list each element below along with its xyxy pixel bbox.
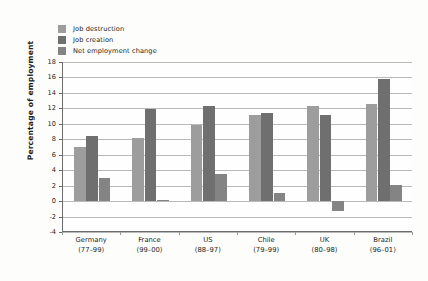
x-axis-label-years: (99–00) [120, 246, 178, 256]
legend-label-job-creation: Job creation [73, 36, 113, 44]
y-axis-line [62, 62, 63, 232]
y-tick-label: 12 [48, 104, 56, 112]
legend-label-net-employment-change: Net employment change [73, 47, 157, 55]
gridline [62, 124, 412, 125]
y-tick-label: 6 [52, 151, 56, 159]
gridline [62, 155, 412, 156]
legend-item-job-creation: Job creation [58, 35, 157, 44]
y-tick-label: 16 [48, 73, 56, 81]
x-axis-labels: Germany(77–99)France(99–00)US(88–97)Chil… [62, 236, 412, 270]
x-axis-label-years: (96–01) [354, 246, 412, 256]
y-tick-label: 4 [52, 166, 56, 174]
bar [99, 178, 111, 201]
legend-swatch-net-employment-change [58, 47, 66, 55]
x-axis-label-name: Germany [76, 236, 107, 244]
bar [157, 200, 169, 202]
legend-swatch-job-destruction [58, 25, 66, 33]
bar [249, 115, 261, 201]
x-tick-mark [295, 232, 296, 235]
gridline [62, 170, 412, 171]
bar [145, 109, 157, 201]
x-axis-label-group: UK(80–98) [295, 236, 353, 255]
legend-label-job-destruction: Job destruction [73, 25, 124, 33]
x-tick-mark [237, 232, 238, 235]
legend-swatch-job-creation [58, 36, 66, 44]
bar [332, 201, 344, 211]
bar [191, 125, 203, 202]
bar [307, 106, 319, 201]
y-tick-label: 14 [48, 89, 56, 97]
bar [261, 113, 273, 201]
bar [86, 136, 98, 201]
x-axis-label-years: (80–98) [295, 246, 353, 256]
gridline [62, 186, 412, 187]
legend-item-job-destruction: Job destruction [58, 24, 157, 33]
x-axis-label-group: Brazil(96–01) [354, 236, 412, 255]
gridline [62, 77, 412, 78]
gridline [62, 139, 412, 140]
gridline [62, 108, 412, 109]
bar [366, 104, 378, 201]
x-tick-mark [179, 232, 180, 235]
x-axis-label-group: Germany(77–99) [62, 236, 120, 255]
y-tick-label: 10 [48, 120, 56, 128]
y-tick-label: 2 [52, 182, 56, 190]
y-axis-title: Percentage of employment [26, 11, 35, 191]
y-tick-label: -2 [49, 213, 56, 221]
plot-background [62, 62, 412, 232]
y-tick-label: 18 [48, 58, 56, 66]
gridline [62, 62, 412, 63]
chart-figure: Job destruction Job creation Net employm… [0, 0, 428, 281]
x-axis-label-group: France(99–00) [120, 236, 178, 255]
bar [132, 138, 144, 201]
x-axis-label-name: UK [320, 236, 329, 244]
x-axis-line [62, 231, 412, 232]
gridline [62, 201, 412, 202]
x-axis-label-years: (79–99) [237, 246, 295, 256]
x-axis-label-name: US [203, 236, 212, 244]
plot-area: 181614121086420-2-4 [62, 62, 412, 232]
bar [74, 147, 86, 201]
x-axis-label-name: Chile [258, 236, 275, 244]
gridline [62, 93, 412, 94]
x-tick-mark [412, 232, 413, 235]
bar [378, 79, 390, 201]
x-tick-mark [120, 232, 121, 235]
x-axis-label-name: France [138, 236, 161, 244]
y-tick-label: 8 [52, 135, 56, 143]
bar [215, 174, 227, 201]
gridline [62, 217, 412, 218]
x-axis-label-name: Brazil [373, 236, 392, 244]
y-tick-label: 0 [52, 197, 56, 205]
bar [390, 185, 402, 201]
bar [203, 106, 215, 201]
bar [274, 193, 286, 202]
x-tick-mark [62, 232, 63, 235]
x-tick-mark [354, 232, 355, 235]
x-axis-label-group: US(88–97) [179, 236, 237, 255]
x-axis-label-years: (88–97) [179, 246, 237, 256]
x-axis-label-group: Chile(79–99) [237, 236, 295, 255]
bar [320, 115, 332, 202]
legend-item-net-employment-change: Net employment change [58, 46, 157, 55]
x-axis-label-years: (77–99) [62, 246, 120, 256]
chart-legend: Job destruction Job creation Net employm… [58, 24, 157, 55]
y-tick-label: -4 [49, 228, 56, 236]
